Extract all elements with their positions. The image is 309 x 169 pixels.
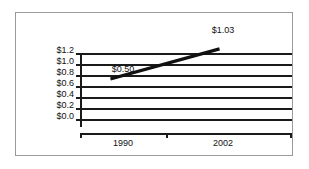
gridline-1 [82, 53, 292, 55]
figure-frame: $1.2 $1.0 $0.8 $0.6 $0.4 $0.2 $0.0 [15, 12, 293, 156]
data-point-label-2002: $1.03 [212, 25, 235, 35]
gridline-4 [82, 86, 292, 88]
x-axis-tick-middle [166, 133, 168, 138]
gridline-7 [82, 119, 292, 121]
data-point-label-1990: $0.50 [112, 64, 135, 74]
x-axis-tick-left [80, 133, 82, 138]
y-axis-tick-label-2: $1.0 [40, 57, 74, 66]
chart-screenshot: $1.2 $1.0 $0.8 $0.6 $0.4 $0.2 $0.0 [0, 0, 309, 169]
x-axis-tick-right [290, 133, 292, 138]
y-axis-tick-label-3: $0.8 [40, 68, 74, 77]
gridline-6 [82, 108, 292, 110]
x-axis-tick-label-1990: 1990 [113, 138, 133, 148]
y-axis-tick-label-5: $0.4 [40, 90, 74, 99]
y-axis-tick-label-7: $0.0 [40, 112, 74, 121]
gridline-3 [82, 75, 292, 77]
y-axis-tick-label-6: $0.2 [40, 101, 74, 110]
gridline-5 [82, 97, 292, 99]
y-axis-tick-label-4: $0.6 [40, 79, 74, 88]
x-axis-line [80, 133, 292, 135]
y-axis-tick-label-1: $1.2 [40, 46, 74, 55]
y-axis-labels: $1.2 $1.0 $0.8 $0.6 $0.4 $0.2 $0.0 [40, 13, 74, 157]
x-axis-tick-label-2002: 2002 [213, 138, 233, 148]
